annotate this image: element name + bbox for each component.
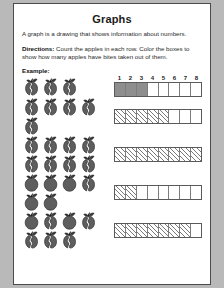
apple-bitten-icon — [42, 154, 59, 173]
apple-bitten-icon — [23, 77, 40, 96]
column-header-4: 4 — [147, 75, 158, 81]
grid-cell-filled[interactable] — [169, 148, 180, 161]
grid-cell-empty[interactable] — [159, 186, 170, 199]
grid-cell-filled[interactable] — [137, 148, 148, 161]
grid-cell-empty[interactable] — [191, 186, 201, 199]
directions-block: Directions: Count the apples in each row… — [22, 45, 202, 61]
apple-bitten-icon — [61, 230, 78, 249]
grid-cell-empty[interactable] — [169, 110, 180, 123]
grid-cell-filled[interactable] — [169, 224, 180, 237]
grid-cell-filled[interactable] — [148, 148, 159, 161]
row-3-apple-group — [22, 173, 114, 211]
apple-bitten-icon — [23, 97, 40, 116]
grid-cell-filled[interactable] — [115, 83, 126, 96]
grid-cell-filled[interactable] — [180, 148, 191, 161]
row-3-bar-grid[interactable] — [114, 185, 202, 200]
grid-cell-empty[interactable] — [137, 186, 148, 199]
grid-cell-filled[interactable] — [159, 224, 170, 237]
grid-cell-filled[interactable] — [180, 224, 191, 237]
grid-cell-empty[interactable] — [191, 110, 201, 123]
grid-cell-filled[interactable] — [115, 148, 126, 161]
apple-whole-icon — [23, 173, 40, 192]
apple-bitten-icon — [42, 211, 59, 230]
row-4-apple-group — [22, 211, 114, 249]
grid-cell-empty[interactable] — [148, 186, 159, 199]
grid-cell-filled[interactable] — [137, 83, 148, 96]
apple-bitten-icon — [42, 230, 59, 249]
grid-cell-empty[interactable] — [180, 83, 191, 96]
column-header-5: 5 — [158, 75, 169, 81]
column-header-6: 6 — [169, 75, 180, 81]
grid-cell-empty[interactable] — [169, 83, 180, 96]
grid-cell-filled[interactable] — [115, 186, 126, 199]
grid-cell-empty[interactable] — [191, 224, 201, 237]
row-3 — [22, 173, 202, 211]
grid-cell-filled[interactable] — [126, 224, 137, 237]
grid-cell-filled[interactable] — [126, 186, 137, 199]
row-2 — [22, 135, 202, 173]
rows-container: 12345678 — [22, 75, 202, 249]
row-4-bar-grid[interactable] — [114, 223, 202, 238]
apple-whole-icon — [42, 173, 59, 192]
page-title: Graphs — [22, 13, 202, 25]
grid-cell-filled[interactable] — [148, 224, 159, 237]
intro-text: A graph is a drawing that shows informat… — [22, 30, 202, 38]
column-header-7: 7 — [180, 75, 191, 81]
apple-whole-icon — [23, 211, 40, 230]
example-row-apple-group — [22, 77, 114, 96]
grid-cell-filled[interactable] — [191, 148, 201, 161]
apple-bitten-icon — [23, 230, 40, 249]
grid-cell-empty[interactable] — [159, 83, 170, 96]
grid-cell-filled[interactable] — [126, 83, 137, 96]
grid-cell-filled[interactable] — [159, 148, 170, 161]
apple-whole-icon — [61, 173, 78, 192]
grid-cell-filled[interactable] — [159, 110, 170, 123]
worksheet-page: Graphs A graph is a drawing that shows i… — [13, 3, 211, 285]
apple-bitten-icon — [80, 154, 97, 173]
apple-bitten-icon — [80, 97, 97, 116]
row-2-bar-grid[interactable] — [114, 147, 202, 162]
grid-cell-filled[interactable] — [115, 110, 126, 123]
example-row-graph: 12345678 — [114, 75, 202, 97]
column-header-3: 3 — [136, 75, 147, 81]
grid-cell-filled[interactable] — [137, 110, 148, 123]
apple-bitten-icon — [61, 135, 78, 154]
apple-whole-icon — [61, 211, 78, 230]
apple-whole-icon — [23, 192, 40, 211]
grid-cell-filled[interactable] — [137, 224, 148, 237]
row-3-graph — [114, 185, 202, 200]
directions-label: Directions: — [22, 45, 54, 52]
grid-cell-filled[interactable] — [148, 110, 159, 123]
example-row: 12345678 — [22, 75, 202, 97]
apple-bitten-icon — [80, 211, 97, 230]
row-1 — [22, 97, 202, 135]
column-header-8: 8 — [191, 75, 202, 81]
apple-bitten-icon — [23, 135, 40, 154]
grid-cell-filled[interactable] — [126, 110, 137, 123]
row-1-bar-grid[interactable] — [114, 109, 202, 124]
grid-cell-filled[interactable] — [126, 148, 137, 161]
grid-cell-empty[interactable] — [180, 186, 191, 199]
row-2-apple-group — [22, 135, 114, 173]
column-headers: 12345678 — [114, 75, 202, 81]
grid-cell-empty[interactable] — [191, 83, 201, 96]
apple-bitten-icon — [80, 135, 97, 154]
grid-cell-empty[interactable] — [180, 110, 191, 123]
example-label: Example: — [22, 67, 202, 74]
grid-cell-empty[interactable] — [169, 186, 180, 199]
apple-bitten-icon — [42, 77, 59, 96]
grid-cell-filled[interactable] — [115, 224, 126, 237]
apple-bitten-icon — [61, 97, 78, 116]
example-row-bar-grid[interactable] — [114, 82, 202, 97]
row-4 — [22, 211, 202, 249]
apple-bitten-icon — [23, 154, 40, 173]
apple-bitten-icon — [23, 116, 40, 135]
row-1-apple-group — [22, 97, 114, 135]
row-2-graph — [114, 147, 202, 162]
apple-bitten-icon — [80, 173, 97, 192]
grid-cell-empty[interactable] — [148, 83, 159, 96]
apple-bitten-icon — [61, 154, 78, 173]
apple-bitten-icon — [61, 77, 78, 96]
column-header-1: 1 — [114, 75, 125, 81]
apple-whole-icon — [42, 192, 59, 211]
